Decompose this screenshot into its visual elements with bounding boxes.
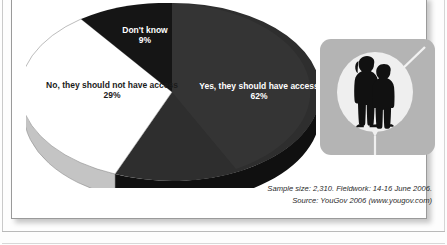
balloon-knot-icon [371, 129, 379, 137]
footnote-source: Source: YouGov 2006 (www.yougov.com) [192, 195, 432, 207]
scan-frame-bottom-rule-secondary [2, 243, 445, 244]
pie-label-no-text: No, they should not have access [46, 80, 178, 90]
children-balloon-illustration [320, 39, 435, 155]
page-root: Should children have access to the inter… [0, 0, 447, 245]
scan-frame-right-rule [444, 0, 445, 232]
pie-label-dont-know-value: 9% [96, 35, 194, 45]
scan-frame-bottom-rule [2, 231, 445, 232]
pie-label-yes-value: 62% [178, 91, 340, 101]
pie-label-yes-text: Yes, they should have access [199, 81, 319, 91]
pie-label-no: No, they should not have access 29% [32, 80, 192, 100]
pie-label-yes: Yes, they should have access 62% [178, 81, 340, 101]
chart-footnote: Sample size: 2,310. Fieldwork: 14-16 Jun… [192, 183, 432, 207]
footnote-sample-size: Sample size: 2,310. Fieldwork: 14-16 Jun… [192, 183, 432, 195]
pie-label-no-value: 29% [32, 90, 192, 100]
pie-label-dont-know-text: Don't know [122, 25, 167, 35]
pie-chart: Don't know 9% No, they should not have a… [26, 3, 316, 188]
scan-frame-left-rule [2, 0, 3, 232]
chart-card: Should children have access to the inter… [11, 0, 427, 219]
illustration-panel [320, 39, 435, 155]
pie-label-dont-know: Don't know 9% [96, 25, 194, 45]
